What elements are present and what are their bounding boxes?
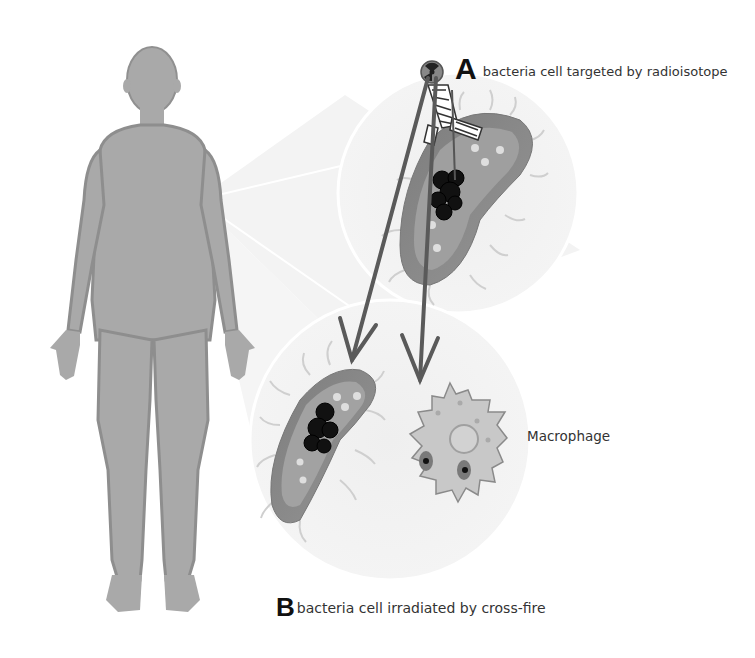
panel-a-caption: bacteria cell targeted by radioisotope: [483, 64, 728, 79]
diagram-canvas: [0, 0, 755, 658]
panel-b-letter: B: [276, 592, 295, 622]
radiation-icon: [421, 61, 443, 83]
panel-b-label: Bbacteria cell irradiated by cross-fire: [276, 592, 546, 623]
panel-a-label: Abacteria cell targeted by radioisotope: [455, 52, 727, 86]
macrophage-label: Macrophage: [527, 428, 610, 444]
panel-b-caption: bacteria cell irradiated by cross-fire: [297, 600, 546, 616]
human-body-silhouette: [50, 47, 255, 612]
panel-a-letter: A: [455, 52, 477, 85]
